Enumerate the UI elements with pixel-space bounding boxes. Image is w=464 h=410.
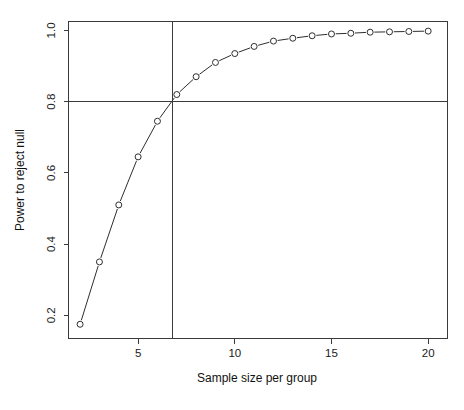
y-tick-label-0: 0.2 [45, 307, 57, 323]
data-point-19 [406, 28, 412, 34]
data-point-11 [251, 43, 257, 49]
data-point-9 [212, 59, 218, 65]
data-point-4 [116, 202, 122, 208]
data-point-18 [386, 29, 392, 35]
data-point-15 [328, 31, 334, 37]
y-tick-label-3: 0.8 [45, 94, 57, 110]
data-point-20 [425, 28, 431, 34]
data-point-17 [367, 29, 373, 35]
data-point-10 [232, 51, 238, 57]
data-point-7 [174, 92, 180, 98]
power-curve-figure: 0.20.40.60.81.0 5101520 Sample size per … [0, 0, 464, 410]
data-point-5 [135, 154, 141, 160]
data-point-14 [309, 33, 315, 39]
y-tick-label-4: 1.0 [45, 22, 57, 38]
power-curve-plot: 0.20.40.60.81.0 5101520 Sample size per … [0, 0, 464, 410]
x-tick-label-1: 10 [228, 347, 241, 359]
data-point-16 [348, 30, 354, 36]
data-point-8 [193, 74, 199, 80]
x-axis-title: Sample size per group [197, 371, 317, 385]
data-point-13 [290, 35, 296, 41]
y-tick-label-2: 0.6 [45, 165, 57, 181]
y-axis-title: Power to reject null [13, 129, 27, 231]
x-tick-label-3: 20 [422, 347, 435, 359]
data-point-12 [270, 38, 276, 44]
y-tick-label-1: 0.4 [45, 236, 57, 253]
data-point-6 [154, 118, 160, 124]
x-tick-label-2: 15 [325, 347, 338, 359]
data-point-2 [77, 321, 83, 327]
x-tick-label-0: 5 [135, 347, 141, 359]
data-point-3 [96, 259, 102, 265]
